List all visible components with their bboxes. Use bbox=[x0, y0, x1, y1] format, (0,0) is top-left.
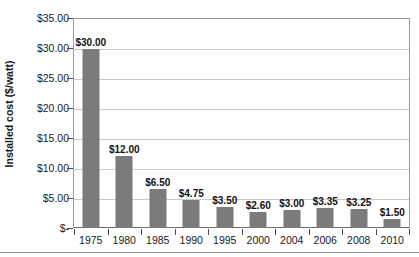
bar-group: $30.00 bbox=[74, 19, 108, 228]
bar-group: $1.50 bbox=[376, 19, 410, 228]
bar bbox=[216, 207, 233, 228]
y-axis-tick-label: $5.00 bbox=[43, 192, 69, 204]
y-axis-tick-label: $10.00 bbox=[37, 162, 69, 174]
bar-group: $3.50 bbox=[208, 19, 242, 228]
bar bbox=[82, 49, 99, 228]
bar bbox=[317, 208, 334, 228]
bar-group: $3.35 bbox=[309, 19, 343, 228]
x-axis-tick-label: 1995 bbox=[213, 234, 236, 246]
x-axis-tick-label: 2010 bbox=[381, 234, 404, 246]
bar bbox=[149, 189, 166, 228]
y-axis-title-text: Installed cost ($/watt) bbox=[3, 61, 15, 168]
bar-value-label: $4.75 bbox=[179, 188, 204, 199]
bar-value-label: $30.00 bbox=[75, 37, 106, 48]
bar bbox=[350, 209, 367, 228]
x-axis-tick-label: 1980 bbox=[113, 234, 136, 246]
bar-value-label: $2.60 bbox=[246, 200, 271, 211]
bar-value-label: $3.50 bbox=[212, 195, 237, 206]
bar-group: $3.00 bbox=[275, 19, 309, 228]
y-axis-tick-labels: $35.00$30.00$25.00$20.00$15.00$10.00$5.0… bbox=[18, 0, 72, 257]
y-axis-tick-label: $30.00 bbox=[37, 42, 69, 54]
x-axis-tick-label: 2008 bbox=[347, 234, 370, 246]
x-axis-tick-labels: 1975198019851990199520002004200620082010 bbox=[74, 234, 409, 252]
bar-group: $2.60 bbox=[242, 19, 276, 228]
x-axis-tick-label: 1990 bbox=[180, 234, 203, 246]
x-axis-tick-mark bbox=[409, 229, 410, 235]
y-axis-tick-mark bbox=[67, 228, 73, 229]
x-axis-tick-label: 2004 bbox=[280, 234, 303, 246]
bar-value-label: $12.00 bbox=[109, 144, 140, 155]
y-axis-tick-label: $35.00 bbox=[37, 12, 69, 24]
bar-value-label: $3.35 bbox=[313, 196, 338, 207]
bar bbox=[283, 210, 300, 228]
bar-value-label: $1.50 bbox=[380, 207, 405, 218]
x-axis-tick-label: 1975 bbox=[79, 234, 102, 246]
bar bbox=[116, 156, 133, 228]
bar bbox=[183, 200, 200, 228]
y-axis-title: Installed cost ($/watt) bbox=[0, 0, 18, 228]
bar-chart-figure: Installed cost ($/watt) $35.00$30.00$25.… bbox=[0, 0, 419, 257]
bar-group: $12.00 bbox=[108, 19, 142, 228]
x-axis-tick-label: 2000 bbox=[247, 234, 270, 246]
bar-value-label: $3.25 bbox=[346, 197, 371, 208]
bar-value-label: $3.00 bbox=[279, 198, 304, 209]
bar-value-label: $6.50 bbox=[145, 177, 170, 188]
bottom-divider bbox=[0, 252, 419, 253]
bars-layer: $30.00$12.00$6.50$4.75$3.50$2.60$3.00$3.… bbox=[74, 19, 409, 228]
y-axis-tick-label: $15.00 bbox=[37, 132, 69, 144]
y-axis-tick-label: $20.00 bbox=[37, 102, 69, 114]
bar-group: $6.50 bbox=[141, 19, 175, 228]
bar bbox=[384, 219, 401, 228]
y-axis-tick-label: $25.00 bbox=[37, 72, 69, 84]
x-axis-tick-label: 1985 bbox=[146, 234, 169, 246]
x-axis-tick-label: 2006 bbox=[314, 234, 337, 246]
bar-group: $4.75 bbox=[175, 19, 209, 228]
bar bbox=[250, 212, 267, 228]
bar-group: $3.25 bbox=[342, 19, 376, 228]
